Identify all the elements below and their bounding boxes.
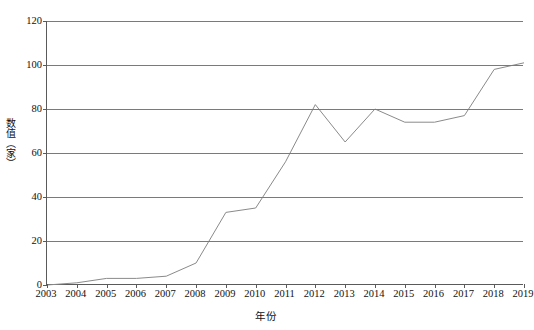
x-axis-title: 年份 xyxy=(0,308,531,323)
gridline xyxy=(47,109,523,110)
x-tick-label: 2017 xyxy=(453,289,474,300)
y-tick-mark xyxy=(43,153,47,154)
x-axis-tick-labels: 2003200420052006200720082009201020112012… xyxy=(46,289,523,305)
x-tick-label: 2008 xyxy=(185,289,206,300)
x-tick-label: 2009 xyxy=(214,289,235,300)
y-axis-tick-labels: 020406080100120 xyxy=(14,0,42,330)
x-tick-label: 2005 xyxy=(95,289,116,300)
y-tick-mark xyxy=(43,109,47,110)
y-tick-mark xyxy=(43,65,47,66)
y-tick-label: 40 xyxy=(18,192,42,203)
x-tick-label: 2010 xyxy=(244,289,265,300)
gridline xyxy=(47,65,523,66)
gridline xyxy=(47,241,523,242)
y-tick-label: 80 xyxy=(18,104,42,115)
x-tick-label: 2016 xyxy=(423,289,444,300)
x-tick-label: 2003 xyxy=(36,289,57,300)
y-tick-label: 20 xyxy=(18,236,42,247)
series-polyline xyxy=(47,63,524,285)
x-tick-label: 2019 xyxy=(513,289,534,300)
x-tick-label: 2014 xyxy=(363,289,384,300)
y-tick-mark xyxy=(43,241,47,242)
x-tick-label: 2018 xyxy=(483,289,504,300)
x-tick-label: 2007 xyxy=(155,289,176,300)
gridline xyxy=(47,21,523,22)
y-tick-label: 120 xyxy=(18,16,42,27)
y-tick-label: 60 xyxy=(18,148,42,159)
y-tick-mark xyxy=(43,197,47,198)
y-tick-label: 100 xyxy=(18,60,42,71)
x-tick-label: 2004 xyxy=(65,289,86,300)
gridline xyxy=(47,197,523,198)
gridline xyxy=(47,153,523,154)
x-tick-label: 2006 xyxy=(125,289,146,300)
y-tick-mark xyxy=(43,21,47,22)
x-tick-label: 2011 xyxy=(274,289,295,300)
x-tick-label: 2013 xyxy=(334,289,355,300)
x-tick-label: 2012 xyxy=(304,289,325,300)
plot-area xyxy=(46,21,523,285)
x-tick-label: 2015 xyxy=(393,289,414,300)
